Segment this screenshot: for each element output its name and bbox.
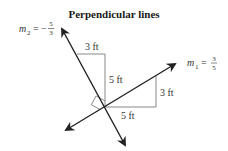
svg-text:=: = bbox=[201, 57, 207, 68]
rise-label-2: 3 ft bbox=[160, 87, 174, 98]
run-label-1: 3 ft bbox=[85, 41, 99, 52]
svg-text:m: m bbox=[19, 23, 26, 34]
svg-text:3: 3 bbox=[212, 55, 216, 63]
perpendicular-lines-diagram: Perpendicular lines 3 ft 5 ft 5 ft 3 ft … bbox=[0, 0, 228, 151]
rise-label-1: 5 ft bbox=[109, 74, 123, 85]
run-label-2: 5 ft bbox=[121, 110, 135, 121]
svg-text:2: 2 bbox=[27, 29, 31, 37]
svg-text:5: 5 bbox=[49, 20, 53, 28]
slope-label-m1: m 1 = 3 5 bbox=[187, 55, 217, 72]
slope-triangle-1: 3 ft 5 ft bbox=[77, 41, 123, 107]
diagram-title: Perpendicular lines bbox=[68, 8, 160, 20]
svg-text:3: 3 bbox=[49, 29, 53, 37]
svg-text:=: = bbox=[33, 23, 39, 34]
svg-text:5: 5 bbox=[212, 64, 216, 72]
slope-label-m2: m 2 = − 5 3 bbox=[19, 20, 54, 37]
svg-text:m: m bbox=[187, 57, 194, 68]
svg-text:1: 1 bbox=[195, 63, 199, 71]
svg-text:−: − bbox=[41, 23, 47, 34]
